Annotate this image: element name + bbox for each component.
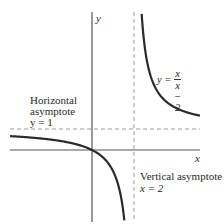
function-lhs: y =	[157, 74, 171, 86]
vertical-asymptote-equation: x = 2	[140, 182, 163, 194]
function-denominator: x − 2	[174, 80, 181, 113]
vertical-asymptote-title: Vertical asymptote	[140, 170, 222, 182]
x-axis-label: x	[195, 152, 200, 164]
curve-left-branch	[10, 136, 124, 220]
function-fraction: x x − 2	[174, 68, 181, 113]
y-axis-label: y	[96, 12, 101, 24]
horizontal-asymptote-equation: y = 1	[30, 116, 53, 128]
function-numerator: x	[174, 68, 181, 80]
curve-right-branch	[142, 14, 200, 116]
